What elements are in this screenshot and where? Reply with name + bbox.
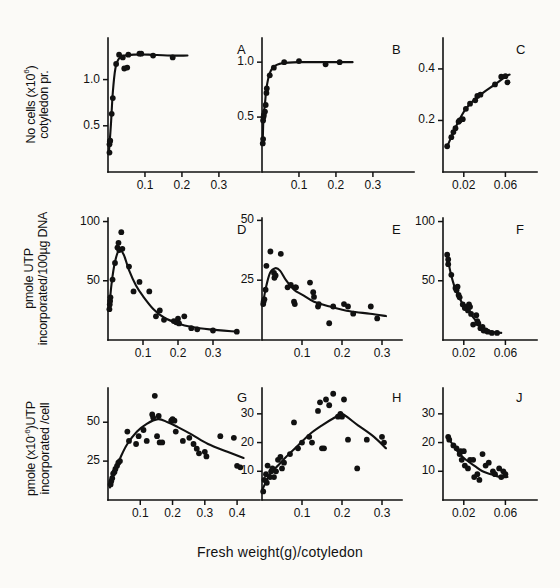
- y-tick-label: 10: [0, 463, 435, 477]
- data-point: [112, 260, 118, 266]
- data-point: [478, 92, 484, 98]
- x-tick-label: 0.1: [125, 346, 161, 360]
- y-axis-label-row-1: No cells (x106)cotyledon pr.: [20, 65, 51, 143]
- x-tick-label: 0.2: [324, 346, 360, 360]
- data-point: [287, 451, 293, 457]
- data-point: [446, 437, 452, 443]
- x-tick-label: 0.2: [160, 346, 196, 360]
- fitted-curve-f: [447, 255, 501, 333]
- data-point: [116, 240, 122, 246]
- data-point: [141, 427, 147, 433]
- x-tick-label: 0.06: [487, 346, 523, 360]
- y-axis-label-row-2: pmole UTPincorporated/100µg DNA: [23, 211, 50, 344]
- data-point: [204, 454, 210, 460]
- data-point: [260, 136, 266, 142]
- panel-c: [438, 38, 537, 177]
- data-point: [489, 330, 495, 336]
- data-point: [317, 399, 323, 405]
- data-point: [234, 329, 240, 335]
- data-point: [119, 246, 125, 252]
- x-tick-label: 0.2: [155, 506, 191, 520]
- data-point: [316, 301, 322, 307]
- data-point: [457, 294, 463, 300]
- data-point: [445, 261, 451, 267]
- data-point: [262, 296, 268, 302]
- panel-b: [257, 38, 414, 177]
- panel-j: [438, 388, 537, 505]
- y-tick-label: 30: [0, 406, 435, 420]
- data-point: [210, 328, 216, 334]
- x-tick-label: 0.02: [446, 346, 482, 360]
- x-tick-label: 0.1: [127, 178, 163, 192]
- data-point: [146, 289, 152, 295]
- data-point: [311, 294, 317, 300]
- data-point: [470, 457, 476, 463]
- panel-label-c: C: [516, 42, 525, 57]
- x-tick-label: 0.1: [122, 506, 158, 520]
- data-point: [188, 325, 194, 331]
- data-point: [118, 229, 124, 235]
- data-point: [486, 460, 492, 466]
- data-point: [368, 304, 374, 310]
- data-point: [278, 454, 284, 460]
- data-point: [468, 311, 474, 317]
- x-tick-label: 0.3: [364, 346, 400, 360]
- y-tick-label: 100: [0, 214, 435, 228]
- data-point: [264, 480, 270, 486]
- data-point: [350, 311, 356, 317]
- data-point: [330, 391, 336, 397]
- data-point: [467, 304, 473, 310]
- data-point: [477, 477, 483, 483]
- data-point: [448, 272, 454, 278]
- data-point: [503, 73, 509, 79]
- data-point: [492, 81, 498, 87]
- data-point: [455, 284, 461, 290]
- data-point: [110, 95, 116, 101]
- panel-label-g: G: [237, 390, 247, 405]
- data-point: [131, 289, 137, 295]
- data-point: [503, 471, 509, 477]
- x-tick-label: 0.4: [219, 506, 255, 520]
- panel-label-b: B: [392, 42, 401, 57]
- data-point: [480, 451, 486, 457]
- data-point: [448, 134, 454, 140]
- data-point: [263, 287, 269, 293]
- data-point: [474, 471, 480, 477]
- data-point: [463, 106, 469, 112]
- panel-f: [438, 218, 537, 345]
- data-point: [330, 304, 336, 310]
- y-tick-label: 50: [0, 273, 435, 287]
- data-point: [323, 397, 329, 403]
- y-tick-label: 0.2: [0, 112, 435, 126]
- data-point: [181, 313, 187, 319]
- data-point: [505, 79, 511, 85]
- data-point: [292, 301, 298, 307]
- x-tick-label: 0.1: [281, 178, 317, 192]
- data-point: [278, 251, 284, 257]
- data-point: [264, 86, 270, 92]
- data-point: [176, 321, 182, 327]
- data-point: [291, 420, 297, 426]
- data-point: [326, 320, 332, 326]
- data-point: [126, 264, 132, 270]
- data-point: [444, 143, 450, 149]
- x-tick-label: 0.3: [201, 178, 237, 192]
- data-point: [345, 304, 351, 310]
- x-tick-label: 0.2: [318, 178, 354, 192]
- y-tick-label: 20: [0, 435, 435, 449]
- data-point: [108, 294, 114, 300]
- data-point: [194, 326, 200, 332]
- y-tick-label: 0.4: [0, 61, 435, 75]
- x-tick-label: 0.02: [446, 506, 482, 520]
- x-tick-label: 0.3: [195, 346, 231, 360]
- data-point: [460, 116, 466, 122]
- data-point: [461, 448, 467, 454]
- x-tick-label: 0.06: [487, 506, 523, 520]
- panel-label-h: H: [392, 390, 401, 405]
- data-point: [107, 150, 113, 156]
- panel-label-f: F: [516, 222, 524, 237]
- plots-canvas: [0, 0, 560, 588]
- x-tick-label: 0.3: [355, 178, 391, 192]
- data-point: [341, 397, 347, 403]
- data-point: [264, 263, 270, 269]
